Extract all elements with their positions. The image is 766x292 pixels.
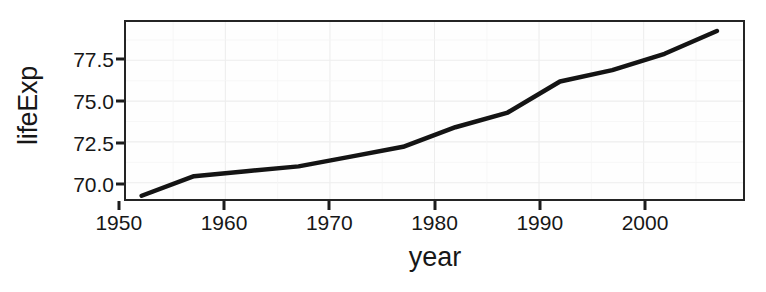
y-axis-title-text: lifeExp (15, 66, 42, 145)
y-tick-label: 77.5 (73, 49, 114, 70)
x-tick-label: 1950 (95, 211, 142, 235)
x-axis-tick-labels: 195019601970198019902000 (0, 211, 766, 241)
y-tick-mark (116, 99, 124, 102)
x-tick-label: 2000 (622, 211, 669, 235)
x-axis-title-text: year (409, 244, 462, 271)
x-tick-mark (117, 201, 120, 210)
x-tick-mark (328, 201, 331, 210)
x-tick-label: 1980 (411, 211, 458, 235)
x-tick-label: 1990 (516, 211, 563, 235)
x-axis-title: year (0, 244, 766, 271)
y-tick-mark (116, 183, 124, 186)
x-tick-mark (222, 201, 225, 210)
line-chart: lifeExp 70.072.575.077.5 195019601970198… (0, 0, 766, 292)
x-tick-mark (538, 201, 541, 210)
series-line-lifeExp (142, 31, 717, 196)
y-tick-mark (116, 141, 124, 144)
y-tick-label: 70.0 (73, 174, 114, 195)
plot-panel (124, 20, 745, 201)
y-axis-title: lifeExp (0, 0, 56, 210)
x-tick-label: 1970 (306, 211, 353, 235)
x-tick-label: 1960 (201, 211, 248, 235)
y-tick-mark (116, 58, 124, 61)
data-series-layer (126, 22, 743, 199)
x-tick-mark (433, 201, 436, 210)
y-tick-label: 72.5 (73, 132, 114, 153)
y-tick-label: 75.0 (73, 90, 114, 111)
x-tick-mark (644, 201, 647, 210)
